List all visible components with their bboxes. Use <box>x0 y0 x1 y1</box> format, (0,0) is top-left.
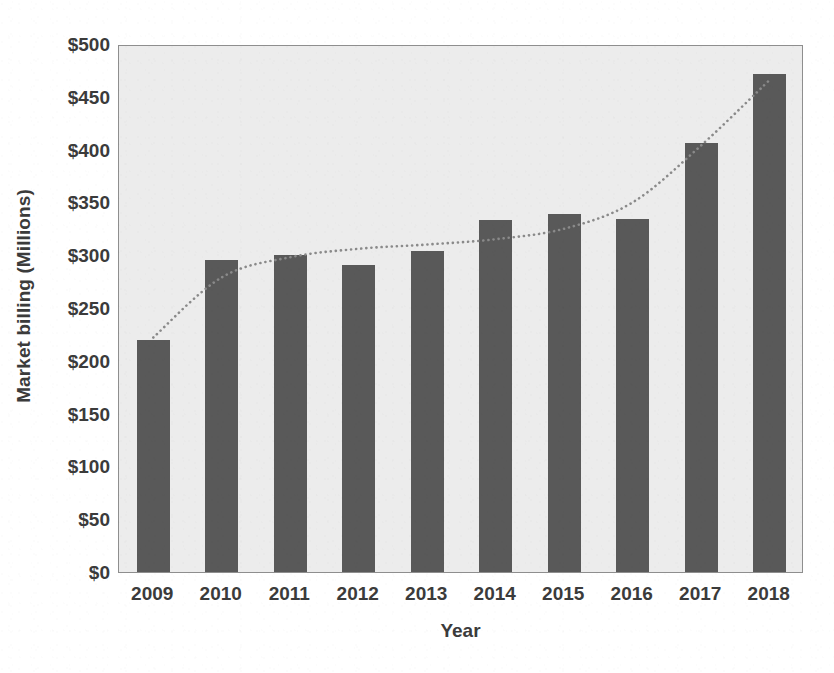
y-axis-tick-label: $100 <box>38 456 110 478</box>
y-axis-tick-label: $250 <box>38 298 110 320</box>
bar <box>685 143 718 572</box>
trend-line-path <box>153 80 770 338</box>
x-axis-tick-label: 2018 <box>724 583 814 605</box>
y-axis-tick-label: $300 <box>38 245 110 267</box>
y-axis-tick-label: $150 <box>38 404 110 426</box>
bar <box>342 265 375 572</box>
y-axis-tick-label: $350 <box>38 192 110 214</box>
y-axis-tick-label: $450 <box>38 87 110 109</box>
bar <box>479 220 512 572</box>
y-axis-tick-labels: $500$450$400$350$300$250$200$150$100$50$… <box>28 45 110 573</box>
y-axis-tick-label: $0 <box>38 562 110 584</box>
y-axis-tick-label: $500 <box>38 34 110 56</box>
y-axis-tick-label: $400 <box>38 140 110 162</box>
x-axis-tick-labels: 2009201020112012201320142015201620172018 <box>118 583 803 611</box>
bar <box>411 251 444 572</box>
bar <box>548 214 581 572</box>
y-axis-tick-label: $200 <box>38 351 110 373</box>
plot-inner <box>119 46 802 572</box>
bar <box>753 74 786 572</box>
y-axis-tick-label: $50 <box>38 509 110 531</box>
bar <box>616 219 649 572</box>
plot-area <box>118 45 803 573</box>
bar <box>137 340 170 572</box>
x-axis-title: Year <box>118 620 803 642</box>
bar <box>274 255 307 572</box>
bar <box>205 260 238 572</box>
market-billing-bar-chart: Market billing (Millions) $500$450$400$3… <box>0 0 834 673</box>
